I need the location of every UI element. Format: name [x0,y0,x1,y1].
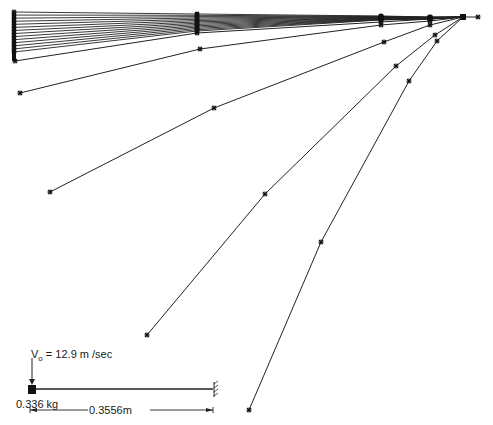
root-marker [460,14,466,20]
velocity-arrowhead [29,379,35,385]
marker-cluster [12,12,16,61]
node-marker-icon [247,408,252,413]
length-label: 0.3556m [89,404,132,416]
velocity-label: Vo = 12.9 m /sec [31,348,112,365]
node-marker-icon [145,333,150,338]
node-marker-icon [195,31,200,36]
dimension-arrow-right [206,408,213,412]
node-marker-icon [319,240,324,245]
profile-line [249,17,463,410]
node-marker-icon [382,40,387,45]
clamp-hatch-icon [214,381,218,396]
node-marker-icon [407,79,412,84]
node-marker-icon [212,106,217,111]
profile-line [50,17,463,192]
node-marker-icon [18,91,23,96]
velocity-subscript: o [38,354,42,363]
node-marker-icon [263,192,268,197]
node-marker-icon [476,15,481,20]
node-marker-icon [13,59,18,64]
node-marker-icon [48,190,53,195]
velocity-value: = 12.9 m /sec [46,348,112,360]
profile-line [147,17,463,335]
node-marker-icon [433,33,438,38]
node-marker-icon [198,47,203,52]
node-marker-icon [435,39,440,44]
node-marker-icon [394,64,399,69]
node-marker-icon [379,23,384,28]
node-marker-icon [428,23,433,28]
mass-label: 0.336 kg [16,398,58,410]
impact-mass [28,385,36,394]
